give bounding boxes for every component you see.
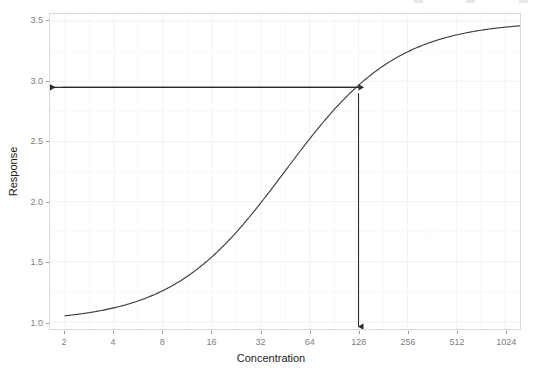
x-tick-mark bbox=[162, 331, 163, 334]
x-tick-label: 64 bbox=[305, 338, 315, 347]
x-tick-label: 2 bbox=[61, 338, 66, 347]
clipped-top-artifact bbox=[466, 0, 475, 3]
plot-area bbox=[50, 14, 520, 329]
x-tick-mark bbox=[506, 331, 507, 334]
plot-panel bbox=[49, 13, 521, 330]
x-tick-mark bbox=[310, 331, 311, 334]
annotations bbox=[50, 87, 359, 326]
y-tick-mark bbox=[46, 323, 49, 324]
y-tick-mark bbox=[46, 20, 49, 21]
x-tick-mark bbox=[211, 331, 212, 334]
x-tick-label: 128 bbox=[351, 338, 366, 347]
x-tick-label: 256 bbox=[400, 338, 415, 347]
x-tick-label: 16 bbox=[206, 338, 216, 347]
x-tick-mark bbox=[113, 331, 114, 334]
x-tick-label: 8 bbox=[160, 338, 165, 347]
y-tick-mark bbox=[46, 202, 49, 203]
clipped-top-artifact bbox=[414, 0, 423, 3]
y-tick-mark bbox=[46, 81, 49, 82]
clipped-top-artifact bbox=[519, 0, 528, 3]
y-tick-mark bbox=[46, 141, 49, 142]
y-axis-title: Response bbox=[7, 13, 21, 330]
x-tick-mark bbox=[359, 331, 360, 334]
x-axis-title: Concentration bbox=[0, 352, 542, 364]
y-tick-mark bbox=[46, 262, 49, 263]
x-tick-mark bbox=[457, 331, 458, 334]
x-tick-mark bbox=[64, 331, 65, 334]
x-tick-mark bbox=[261, 331, 262, 334]
response-curve bbox=[65, 26, 520, 316]
x-tick-mark bbox=[408, 331, 409, 334]
x-tick-label: 32 bbox=[255, 338, 265, 347]
x-tick-label: 512 bbox=[450, 338, 465, 347]
chart-container: 1.01.52.02.53.03.5 Response 248163264128… bbox=[0, 0, 542, 375]
x-tick-label: 1024 bbox=[496, 338, 516, 347]
x-tick-label: 4 bbox=[111, 338, 116, 347]
